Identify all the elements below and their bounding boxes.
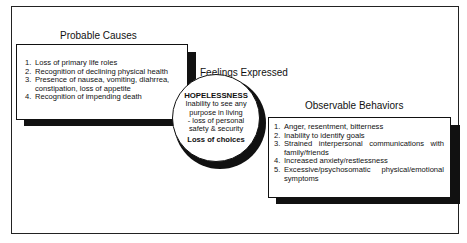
loss-of-choices: Loss of choices: [187, 135, 244, 145]
feeling-line: safety & security: [189, 125, 243, 133]
list-item: 4.Recognition of impending death: [25, 93, 181, 102]
observable-behaviors-box: 1.Anger, resentment, bitterness 2.Inabil…: [268, 117, 451, 198]
observable-behaviors-list: 1.Anger, resentment, bitterness 2.Inabil…: [274, 123, 444, 183]
list-item: 5.Excessive/psychosomatic physical/emoti…: [274, 166, 444, 183]
probable-causes-heading: Probable Causes: [60, 30, 137, 41]
observable-behaviors-heading: Observable Behaviors: [305, 100, 403, 111]
list-item: 3.Strained interpersonal communications …: [274, 140, 444, 157]
list-item: 3.Presence of nausea, vomiting, diahrrea…: [25, 76, 181, 93]
hopelessness-circle: HOPELESSNESS Inability to see any purpos…: [172, 74, 260, 162]
probable-causes-box: 1.Loss of primary life roles 2.Recogniti…: [16, 44, 188, 120]
probable-causes-list: 1.Loss of primary life roles 2.Recogniti…: [25, 59, 181, 102]
